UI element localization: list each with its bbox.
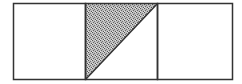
- three-squares-diagram: [0, 0, 242, 84]
- left-square: [14, 4, 86, 80]
- right-square: [158, 4, 233, 80]
- diagram-container: [0, 0, 242, 84]
